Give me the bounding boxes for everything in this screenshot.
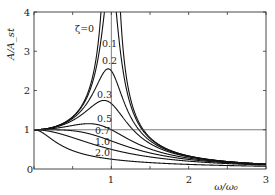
x-axis-label: ω/ω₀ [214, 181, 238, 192]
plot-frame [34, 12, 266, 169]
y-tick-2: 2 [24, 85, 30, 96]
reference-lines [34, 12, 266, 169]
curve-zeta-1 [34, 130, 266, 165]
resonance-chart: 0 1 2 3 1 2 3 4 ω/ω₀ A/A_st ζ=0 0.1 0.2 … [0, 0, 275, 195]
curve-label-zeta-0: ζ=0 [75, 23, 94, 34]
curve-label-zeta-0.5: 0.5 [97, 113, 112, 124]
curve-label-zeta-0.7: 0.7 [95, 125, 110, 136]
y-tick-4: 4 [24, 7, 30, 18]
curve-zeta-0 [34, 0, 105, 130]
x-tick-0: 0 [27, 164, 33, 175]
curve-zeta-0.7 [34, 130, 266, 165]
y-axis-label: A/A_st [5, 27, 17, 61]
curve-zeta-0 [118, 0, 266, 164]
curve-zeta-2 [34, 130, 266, 167]
y-tick-3: 3 [24, 46, 30, 57]
ticks-group [34, 12, 266, 169]
curve-label-zeta-0.1: 0.1 [102, 38, 117, 49]
x-tick-2: 2 [186, 174, 192, 185]
curve-zeta-0.3 [34, 100, 266, 164]
curve-label-zeta-2.0: 2.0 [95, 147, 110, 158]
curves-group [34, 0, 266, 166]
curve-zeta-0.1 [34, 0, 266, 164]
y-tick-1: 1 [24, 124, 30, 135]
curve-label-zeta-0.2: 0.2 [102, 55, 117, 66]
x-tick-1: 1 [108, 174, 114, 185]
curve-zeta-0.2 [34, 69, 266, 164]
curve-label-zeta-1.0: 1.0 [95, 136, 110, 147]
x-tick-3: 3 [263, 174, 269, 185]
curve-label-zeta-0.3: 0.3 [97, 89, 112, 100]
